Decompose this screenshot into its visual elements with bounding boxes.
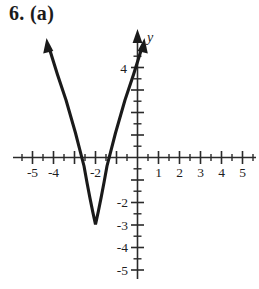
curve-left-arrow-icon bbox=[43, 38, 53, 54]
graph-canvas: -5 -4 -2 1 2 3 4 5 4 -2 -3 -4 -5 y bbox=[0, 0, 259, 289]
y-tick-label: -2 bbox=[117, 195, 128, 210]
x-tick-label: 3 bbox=[197, 165, 204, 180]
y-axis-label: y bbox=[145, 30, 154, 45]
x-tick-label: 1 bbox=[155, 165, 162, 180]
y-tick-label: 4 bbox=[120, 61, 127, 76]
y-tick-label: -3 bbox=[117, 218, 128, 233]
figure-container: 6. (a) bbox=[0, 0, 259, 289]
x-tick-label: -2 bbox=[90, 165, 101, 180]
y-axis-arrow-icon bbox=[133, 29, 143, 43]
y-tick-label: -5 bbox=[117, 263, 128, 278]
x-tick-label: -5 bbox=[27, 165, 38, 180]
x-tick-label: 2 bbox=[176, 165, 183, 180]
y-tick-label: -4 bbox=[117, 240, 128, 255]
x-tick-label: 5 bbox=[239, 165, 246, 180]
x-tick-label: 4 bbox=[218, 165, 225, 180]
x-tick-label: -4 bbox=[48, 165, 59, 180]
